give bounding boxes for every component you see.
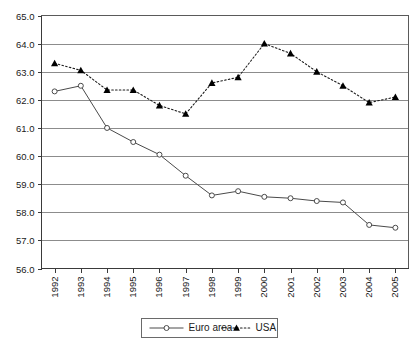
x-tick-label: 1993 <box>75 277 86 298</box>
data-point-marker <box>262 194 267 199</box>
x-tick-marks <box>56 269 396 273</box>
data-point-marker <box>392 93 399 100</box>
data-point-marker <box>393 225 398 230</box>
data-point-marker <box>183 173 188 178</box>
legend-marker-euro-area <box>164 326 169 331</box>
y-tick-label: 60.0 <box>16 151 35 162</box>
x-tick-label: 1995 <box>127 277 138 298</box>
data-point-marker <box>261 40 268 47</box>
series-group <box>51 40 399 230</box>
plot-area-border <box>42 16 409 269</box>
data-point-marker <box>287 50 294 57</box>
legend-label-usa: USA <box>256 322 277 333</box>
data-point-marker <box>313 68 320 75</box>
x-tick-label: 2002 <box>311 277 322 298</box>
x-tick-label: 2005 <box>389 277 400 298</box>
chart-legend: Euro areaUSA <box>142 319 278 338</box>
series-line <box>55 44 396 114</box>
x-tick-label: 1998 <box>206 277 217 298</box>
data-point-marker <box>340 200 345 205</box>
x-tick-label: 1997 <box>180 277 191 298</box>
y-axis: 65.064.063.062.061.060.059.058.057.056.0 <box>16 11 42 275</box>
data-point-marker <box>209 193 214 198</box>
data-point-marker <box>157 152 162 157</box>
line-chart: 65.064.063.062.061.060.059.058.057.056.0… <box>0 0 419 351</box>
data-point-marker <box>156 102 163 109</box>
y-tick-label: 65.0 <box>16 11 35 22</box>
data-point-marker <box>235 74 242 81</box>
y-tick-labels: 65.064.063.062.061.060.059.058.057.056.0 <box>16 11 35 275</box>
y-tick-label: 59.0 <box>16 179 35 190</box>
data-point-marker <box>236 189 241 194</box>
y-tick-label: 63.0 <box>16 67 35 78</box>
x-tick-label: 2001 <box>285 277 296 298</box>
data-point-marker <box>78 83 83 88</box>
x-tick-labels: 1992199319941995199619971998199920002001… <box>49 277 400 298</box>
data-point-marker <box>367 222 372 227</box>
data-point-marker <box>314 199 319 204</box>
x-tick-label: 2000 <box>258 277 269 298</box>
data-point-marker <box>51 60 58 67</box>
y-tick-label: 58.0 <box>16 207 35 218</box>
data-point-marker <box>131 140 136 145</box>
y-tick-label: 61.0 <box>16 123 35 134</box>
plot-frame <box>42 16 409 269</box>
y-tick-label: 64.0 <box>16 39 35 50</box>
x-tick-label: 2004 <box>363 277 374 298</box>
y-tick-label: 57.0 <box>16 235 35 246</box>
data-point-marker <box>105 125 110 130</box>
y-tick-marks <box>38 17 42 270</box>
x-tick-label: 2003 <box>337 277 348 298</box>
x-tick-label: 1999 <box>232 277 243 298</box>
y-tick-label: 56.0 <box>16 264 35 275</box>
series-usa <box>51 40 399 117</box>
data-point-marker <box>52 89 57 94</box>
chart-svg: 65.064.063.062.061.060.059.058.057.056.0… <box>0 0 419 351</box>
data-point-marker <box>339 82 346 89</box>
x-tick-label: 1996 <box>153 277 164 298</box>
x-tick-label: 1992 <box>49 277 60 298</box>
y-tick-label: 62.0 <box>16 95 35 106</box>
data-point-marker <box>288 196 293 201</box>
x-tick-label: 1994 <box>101 277 112 298</box>
x-axis: 1992199319941995199619971998199920002001… <box>42 269 409 298</box>
